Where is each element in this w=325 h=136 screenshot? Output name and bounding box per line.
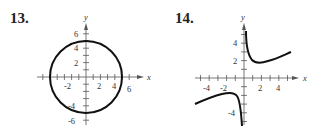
x-tick-label: 6 xyxy=(127,84,131,94)
x-tick-label: 2 xyxy=(258,83,262,93)
y-tick-label: -4 xyxy=(68,101,76,111)
y-tick-label: 6 xyxy=(74,29,78,39)
y-arrow-icon xyxy=(242,23,246,30)
x-tick-label: -2 xyxy=(64,81,71,91)
y-tick-label: 2 xyxy=(74,58,78,68)
x-tick-label: 2 xyxy=(97,81,101,91)
graph-13 xyxy=(37,23,144,125)
x-axis-label: x xyxy=(302,73,307,83)
graph-14-labels: x y -4 -2 2 4 4 2 -4 xyxy=(203,12,307,118)
y-tick-label: -6 xyxy=(68,116,75,126)
y-tick-label: -4 xyxy=(228,108,236,118)
graph-13-labels: x y -2 2 4 6 6 4 2 -4 -6 xyxy=(64,12,151,126)
y-tick-label: 4 xyxy=(74,43,79,53)
y-tick-label: 4 xyxy=(233,38,238,48)
y-arrow-icon xyxy=(84,23,88,30)
y-axis-label: y xyxy=(83,12,88,22)
x-arrow-icon xyxy=(292,76,299,80)
x-arrow-icon xyxy=(137,75,144,79)
y-axis-label: y xyxy=(240,12,245,22)
graphs: x y -2 2 4 6 6 4 2 -4 -6 xyxy=(0,0,325,136)
x-tick-label: 4 xyxy=(112,81,117,91)
x-tick-label: 4 xyxy=(276,83,281,93)
right-branch-curve xyxy=(246,31,291,63)
x-tick-label: -4 xyxy=(203,83,211,93)
graph-14 xyxy=(195,23,299,126)
x-tick-label: -2 xyxy=(220,83,227,93)
y-tick-label: 2 xyxy=(233,56,237,66)
x-axis-label: x xyxy=(146,72,151,82)
